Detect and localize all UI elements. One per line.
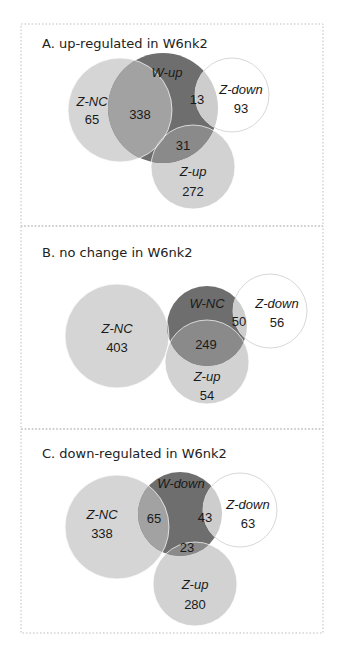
set-label: W-NC bbox=[189, 296, 225, 311]
count-label: 54 bbox=[200, 388, 214, 403]
count-label: 23 bbox=[180, 540, 194, 555]
venn-panel-c: C. down-regulated in W6nk2W-downZ-NC3386… bbox=[21, 429, 323, 633]
count-label: 338 bbox=[91, 526, 113, 541]
count-label: 13 bbox=[190, 92, 204, 107]
set-label: W-up bbox=[152, 65, 183, 80]
count-label: 280 bbox=[184, 597, 206, 612]
set-label: Z-NC bbox=[85, 507, 118, 522]
set-label: Z-up bbox=[193, 369, 221, 384]
count-label: 338 bbox=[129, 107, 151, 122]
count-label: 31 bbox=[176, 138, 190, 153]
count-label: 56 bbox=[270, 315, 284, 330]
set-label: Z-down bbox=[254, 296, 298, 311]
venn-panel-b: B. no change in W6nk2W-NCZ-NC40350Z-down… bbox=[21, 226, 323, 429]
count-label: 249 bbox=[195, 337, 217, 352]
count-label: 65 bbox=[147, 511, 161, 526]
set-label: Z-up bbox=[179, 164, 207, 179]
set-label: Z-NC bbox=[75, 94, 108, 109]
count-label: 403 bbox=[106, 340, 128, 355]
panel-title: B. no change in W6nk2 bbox=[42, 245, 193, 260]
set-label: Z-down bbox=[225, 497, 269, 512]
set-label: W-down bbox=[157, 476, 204, 491]
set-label: Z-down bbox=[218, 82, 262, 97]
count-label: 65 bbox=[85, 112, 99, 127]
count-label: 93 bbox=[234, 101, 248, 116]
panel-title: A. up-regulated in W6nk2 bbox=[42, 36, 208, 51]
circle-z-nc bbox=[65, 284, 169, 388]
set-label: Z-NC bbox=[100, 321, 133, 336]
venn-panel-a: A. up-regulated in W6nk2W-upZ-NC6533813Z… bbox=[21, 24, 323, 226]
set-label: Z-up bbox=[181, 577, 209, 592]
count-label: 272 bbox=[182, 184, 204, 199]
count-label: 63 bbox=[241, 516, 255, 531]
count-label: 50 bbox=[232, 314, 246, 329]
panel-title: C. down-regulated in W6nk2 bbox=[42, 446, 227, 461]
venn-figure: A. up-regulated in W6nk2W-upZ-NC6533813Z… bbox=[0, 0, 341, 658]
count-label: 43 bbox=[198, 510, 212, 525]
